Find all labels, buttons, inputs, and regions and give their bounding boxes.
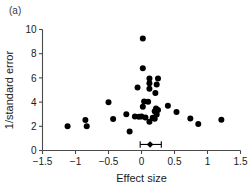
data-point bbox=[140, 65, 146, 71]
x-axis: −1.5−1−0.500.511.5 bbox=[33, 151, 248, 167]
y-tick-label: 8 bbox=[31, 48, 37, 59]
data-point bbox=[187, 115, 193, 121]
data-point bbox=[154, 82, 160, 88]
data-point bbox=[152, 90, 158, 96]
x-tick-label: −1 bbox=[70, 156, 82, 167]
data-point bbox=[140, 36, 146, 42]
y-tick-label: 6 bbox=[31, 73, 37, 84]
data-point bbox=[135, 85, 141, 91]
y-tick-label: 4 bbox=[31, 97, 37, 108]
data-point bbox=[65, 123, 71, 129]
data-point bbox=[173, 109, 179, 115]
data-point bbox=[145, 99, 151, 105]
x-tick-label: 1 bbox=[205, 156, 211, 167]
data-point bbox=[165, 103, 171, 109]
summary-estimate-marker bbox=[140, 141, 161, 148]
x-tick-label: −0.5 bbox=[99, 156, 119, 167]
x-tick-label: 0.5 bbox=[168, 156, 182, 167]
x-tick-label: −1.5 bbox=[33, 156, 53, 167]
data-point bbox=[155, 76, 161, 82]
scatter-points bbox=[65, 36, 225, 135]
data-point bbox=[195, 121, 201, 127]
y-axis: 0246810 bbox=[25, 24, 42, 156]
data-point bbox=[110, 116, 116, 122]
x-tick-label: 1.5 bbox=[234, 156, 248, 167]
data-point bbox=[84, 123, 90, 129]
funnel-plot-figure: (a) 0246810 −1.5−1−0.500.511.5 Effect si… bbox=[0, 0, 252, 190]
data-point bbox=[146, 80, 152, 86]
funnel-plot-canvas: 0246810 −1.5−1−0.500.511.5 Effect size 1… bbox=[0, 0, 252, 190]
data-point bbox=[218, 117, 224, 123]
data-point bbox=[127, 128, 133, 134]
data-point bbox=[140, 104, 146, 110]
y-axis-title: 1/standard error bbox=[3, 51, 15, 130]
data-point bbox=[146, 119, 152, 125]
data-point bbox=[146, 86, 152, 92]
data-point bbox=[82, 117, 88, 123]
panel-label: (a) bbox=[9, 5, 21, 16]
data-point bbox=[106, 99, 112, 105]
y-tick-label: 10 bbox=[25, 24, 37, 35]
y-tick-label: 0 bbox=[31, 145, 37, 156]
x-tick-label: 0 bbox=[139, 156, 145, 167]
data-point bbox=[152, 116, 158, 122]
pooled-effect-diamond bbox=[147, 141, 154, 148]
y-axis-tick-labels: 0246810 bbox=[25, 24, 37, 156]
x-axis-tick-labels: −1.5−1−0.500.511.5 bbox=[33, 156, 248, 167]
y-tick-label: 2 bbox=[31, 121, 37, 132]
x-axis-title: Effect size bbox=[116, 172, 167, 184]
data-point bbox=[123, 111, 129, 117]
